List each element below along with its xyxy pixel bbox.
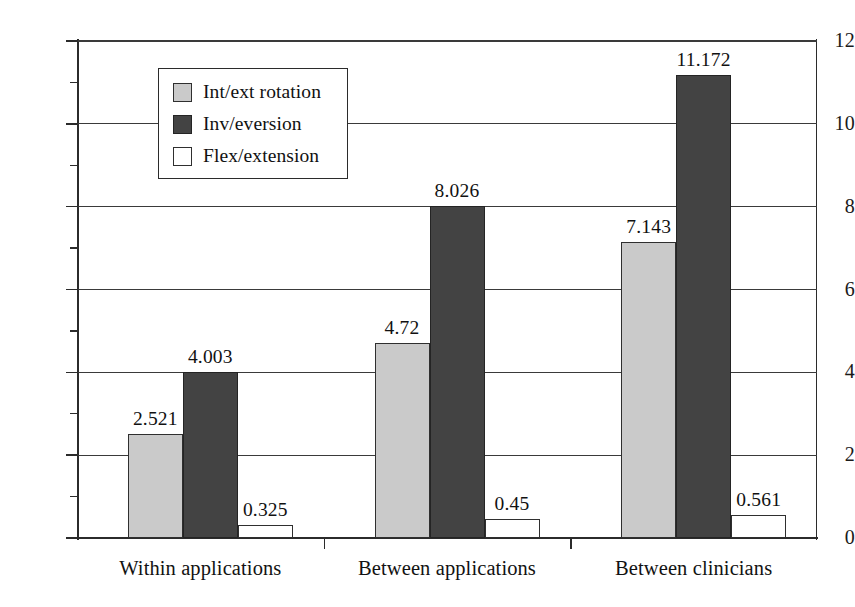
category-tick [324, 538, 325, 549]
bar [485, 519, 540, 538]
bar [621, 242, 676, 538]
bar [375, 343, 430, 538]
legend-item-flex-extension: Flex/extension [159, 140, 347, 172]
bar-value-label: 0.561 [716, 490, 802, 510]
bar [676, 75, 731, 538]
bar-value-label: 4.003 [167, 347, 253, 367]
legend-swatch-inv-eversion [173, 115, 192, 134]
legend-label-flex-extension: Flex/extension [203, 146, 319, 166]
category-tick [570, 538, 571, 549]
bar-chart: 024681012 2.5214.0030.3254.728.0260.457.… [0, 0, 855, 607]
legend-swatch-int-ext-rotation [173, 83, 192, 102]
legend-item-inv-eversion: Inv/eversion [159, 108, 347, 140]
category-label: Between clinicians [564, 556, 824, 580]
bar-value-label: 4.72 [359, 318, 445, 338]
bar [238, 525, 293, 538]
bar [128, 434, 183, 538]
legend-label-int-ext-rotation: Int/ext rotation [203, 82, 321, 102]
legend-swatch-flex-extension [173, 147, 192, 166]
bar [430, 206, 485, 538]
bar-value-label: 2.521 [112, 409, 198, 429]
bar-value-label: 0.45 [469, 494, 555, 514]
category-label: Within applications [70, 556, 330, 580]
legend-label-inv-eversion: Inv/eversion [203, 114, 302, 134]
bar-value-label: 8.026 [414, 181, 500, 201]
bar-value-label: 0.325 [222, 500, 308, 520]
bar-value-label: 11.172 [661, 50, 747, 70]
bar [731, 515, 786, 538]
category-label: Between applications [317, 556, 577, 580]
chart-legend: Int/ext rotation Inv/eversion Flex/exten… [158, 68, 348, 179]
legend-item-int-ext-rotation: Int/ext rotation [159, 76, 347, 108]
bar-value-label: 7.143 [606, 217, 692, 237]
